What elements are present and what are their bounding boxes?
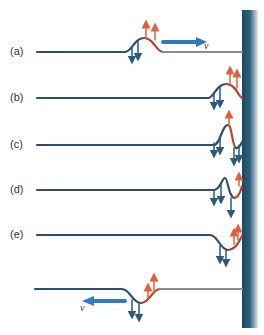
- panel-d-string: [37, 176, 242, 214]
- velocity-label-right: v: [204, 40, 208, 51]
- velocity-label-left: v: [80, 302, 84, 313]
- panel-b-string: [37, 70, 242, 106]
- wall: [242, 10, 258, 328]
- panel-e-string: [37, 228, 242, 263]
- panel-label-c: (c): [10, 138, 23, 150]
- panel-f-string: [35, 277, 242, 318]
- panel-label-a: (a): [10, 45, 23, 57]
- panel-label-d: (d): [10, 183, 23, 195]
- panel-label-e: (e): [10, 228, 23, 240]
- panel-c-string: [37, 114, 242, 162]
- wave-reflection-diagram: [0, 0, 264, 335]
- panel-a-string: [37, 24, 242, 60]
- panel-label-b: (b): [10, 91, 23, 103]
